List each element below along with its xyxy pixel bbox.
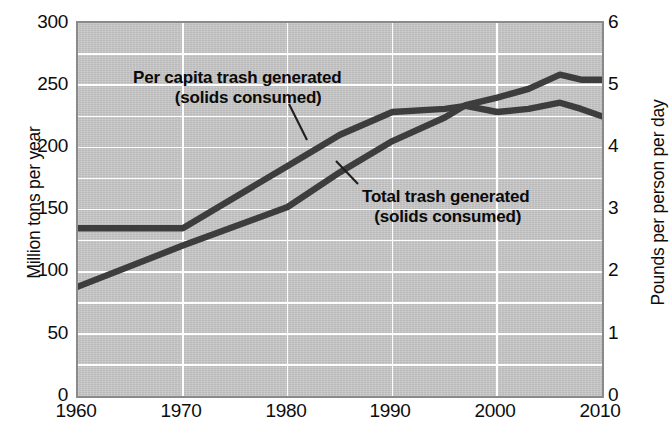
- x-tick-2010: 2010: [565, 400, 635, 422]
- y-tick-right-2: 2: [608, 259, 618, 281]
- y-tick-right-5: 5: [608, 73, 618, 95]
- series-label-per-capita-line1: Per capita trash generated: [133, 68, 341, 87]
- y-tick-right-1: 1: [608, 322, 618, 344]
- x-tick-1960: 1960: [41, 400, 111, 422]
- y-axis-title-right: Pounds per person per day: [648, 73, 669, 333]
- x-tick-1970: 1970: [146, 400, 216, 422]
- x-tick-1990: 1990: [355, 400, 425, 422]
- y-tick-right-4: 4: [608, 135, 618, 157]
- series-label-total-line1: Total trash generated: [362, 187, 529, 206]
- x-tick-2000: 2000: [460, 400, 530, 422]
- series-label-total-line2: (solids consumed): [362, 207, 529, 227]
- series-label-total: Total trash generated (solids consumed): [362, 187, 529, 227]
- x-tick-1980: 1980: [251, 400, 321, 422]
- y-tick-left-300: 300: [6, 11, 68, 33]
- y-axis-title-left: Million tons per year: [24, 83, 45, 323]
- series-label-per-capita: Per capita trash generated (solids consu…: [133, 68, 341, 108]
- series-label-per-capita-line2: (solids consumed): [133, 88, 341, 108]
- y-tick-right-3: 3: [608, 197, 618, 219]
- y-tick-left-50: 50: [6, 322, 68, 344]
- y-tick-right-6: 6: [608, 11, 618, 33]
